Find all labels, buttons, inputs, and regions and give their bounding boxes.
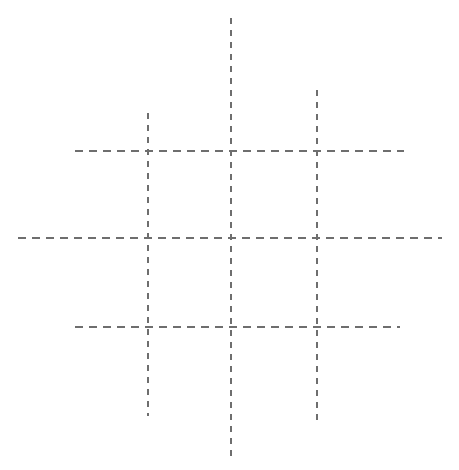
canvas-background	[0, 0, 459, 470]
grid-canvas	[0, 0, 459, 470]
dashed-grid-figure	[0, 0, 459, 470]
